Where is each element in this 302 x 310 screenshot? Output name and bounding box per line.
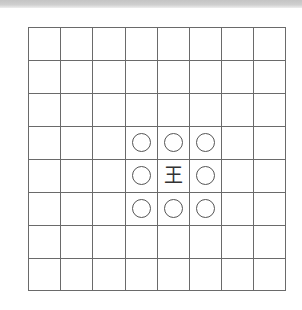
king-label: 王 [164,166,183,185]
move-marker [189,126,221,159]
move-marker [125,192,157,225]
king-piece: 王 [157,159,189,192]
circle-icon [132,133,151,152]
grid-line [29,225,285,226]
grid-line [29,60,285,61]
shogi-board-grid: 王 [28,27,286,291]
circle-icon [132,199,151,218]
circle-icon [164,199,183,218]
move-marker [125,159,157,192]
move-marker [157,126,189,159]
circle-icon [196,133,215,152]
grid-line [29,93,285,94]
grid-line [29,258,285,259]
circle-icon [132,166,151,185]
circle-icon [196,166,215,185]
circle-icon [196,199,215,218]
move-marker [189,192,221,225]
top-band [0,0,302,8]
move-marker [189,159,221,192]
move-marker [125,126,157,159]
circle-icon [164,133,183,152]
move-marker [157,192,189,225]
